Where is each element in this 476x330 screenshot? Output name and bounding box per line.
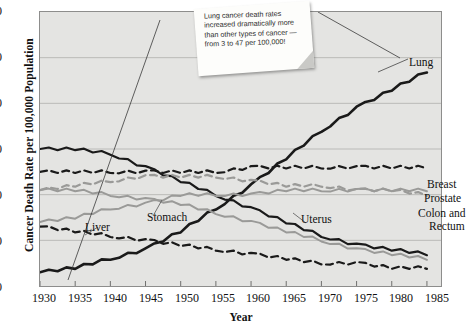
x-axis-title: Year: [39, 311, 443, 323]
y-tick-label-20: 20: [0, 188, 2, 203]
series-line-stomach: [40, 148, 427, 256]
chart-figure: Cancer Death Rate per 100,000 Population…: [0, 0, 476, 330]
series-line-breast: [40, 166, 427, 174]
series-label-uterus: Uterus: [301, 213, 332, 225]
note-leader-line-right: [318, 12, 400, 58]
annotation-note-text: Lung cancer death rates increased dramat…: [204, 8, 309, 48]
label-leader-line-lung: [378, 59, 408, 72]
y-tick-label-40: 40: [0, 96, 2, 111]
note-folded-corner-icon: [296, 51, 314, 69]
y-tick-label-0: 0: [0, 280, 2, 295]
series-label-lung: Lung: [409, 56, 433, 68]
y-tick-label-50: 50: [0, 50, 2, 65]
series-label-breast: Breast: [427, 178, 456, 190]
x-tick-label-1985: 1985: [414, 291, 460, 306]
series-label-stomach: Stomach: [147, 211, 187, 223]
y-tick-label-30: 30: [0, 142, 2, 157]
y-axis-title: Cancer Death Rate per 100,000 Population: [23, 20, 35, 270]
annotation-note: Lung cancer death rates increased dramat…: [194, 1, 315, 76]
series-label-colon-1: Colon and: [418, 207, 466, 219]
y-tick-label-60: 60: [0, 4, 2, 19]
series-label-prostate: Prostate: [424, 192, 461, 204]
y-tick-label-10: 10: [0, 234, 2, 249]
series-label-colon-2: Rectum: [429, 220, 465, 232]
series-label-liver: Liver: [85, 221, 110, 233]
